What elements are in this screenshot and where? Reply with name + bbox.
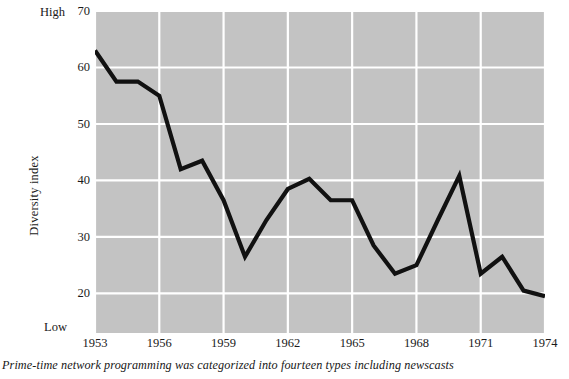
x-tick-1962: 1962 xyxy=(275,336,300,351)
vertical-gridlines xyxy=(95,11,545,333)
x-axis-tick-labels: 19531956195919621965196819711974 xyxy=(0,336,569,356)
y-axis-tick-labels: 706050403020 xyxy=(62,0,90,379)
x-tick-1971: 1971 xyxy=(468,336,493,351)
y-tick-20: 20 xyxy=(66,287,90,299)
y-tick-40: 40 xyxy=(66,174,90,186)
x-tick-1959: 1959 xyxy=(211,336,236,351)
x-tick-1953: 1953 xyxy=(83,336,108,351)
y-tick-60: 60 xyxy=(66,61,90,73)
x-tick-1974: 1974 xyxy=(533,336,558,351)
figure-container: Diversity index High Low 706050403020 19… xyxy=(0,0,569,379)
x-tick-1965: 1965 xyxy=(340,336,365,351)
y-tick-30: 30 xyxy=(66,231,90,243)
y-tick-70: 70 xyxy=(66,5,90,17)
diversity-index-line xyxy=(95,51,545,297)
y-tick-50: 50 xyxy=(66,118,90,130)
line-chart-svg xyxy=(95,11,545,333)
x-tick-1956: 1956 xyxy=(147,336,172,351)
x-tick-1968: 1968 xyxy=(404,336,429,351)
figure-caption: Prime-time network programming was categ… xyxy=(2,358,562,373)
plot-area xyxy=(95,11,545,333)
y-axis-label: Diversity index xyxy=(27,126,42,266)
